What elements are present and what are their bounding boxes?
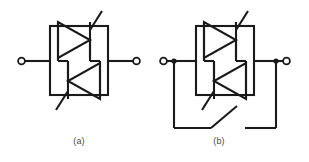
terminal-node-left-b — [160, 58, 167, 65]
junction-dot-right-b — [273, 58, 278, 63]
thyristor-circuit-figure — [0, 0, 309, 162]
caption-a: (a) — [59, 136, 99, 146]
terminal-node-right-b — [283, 58, 290, 65]
figure-background — [0, 0, 309, 162]
terminal-node-right-a — [133, 58, 140, 65]
junction-dot-left-b — [171, 58, 176, 63]
terminal-node-left-a — [18, 58, 25, 65]
caption-b: (b) — [199, 136, 239, 146]
